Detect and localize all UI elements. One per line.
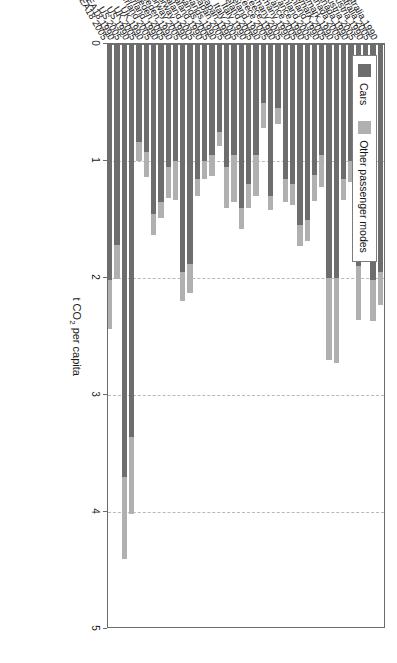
bar-segment-cars — [297, 44, 302, 225]
bar-segment-other-passenger-modes — [224, 167, 229, 208]
bar-segment-cars — [275, 44, 280, 108]
bar-row — [305, 44, 310, 628]
tick-mark — [103, 511, 107, 512]
tick-label: 4 — [90, 499, 101, 523]
bar-segment-cars — [341, 44, 346, 179]
bar-row — [136, 44, 141, 628]
bar-segment-cars — [195, 44, 200, 179]
tick-label: 3 — [90, 382, 101, 406]
bar-segment-other-passenger-modes — [327, 278, 332, 360]
bar-segment-other-passenger-modes — [312, 175, 317, 201]
bar-segment-other-passenger-modes — [378, 272, 383, 305]
bar-row — [209, 44, 214, 628]
bar-row — [151, 44, 156, 628]
bar-row — [217, 44, 222, 628]
tick-label: 2 — [90, 265, 101, 289]
legend-label: Other passenger modes — [359, 140, 371, 253]
legend-swatch — [358, 121, 371, 134]
chart-figure-rotated: 012345 t CO2 per capita Australia 1990Au… — [0, 0, 397, 663]
legend-item[interactable]: Cars — [358, 64, 371, 105]
bar-segment-cars — [290, 44, 295, 184]
bar-segment-cars — [253, 44, 258, 155]
bar-segment-cars — [122, 44, 127, 477]
legend-item[interactable]: Other passenger modes — [358, 121, 371, 253]
bar-segment-cars — [224, 44, 229, 167]
tick-label: 1 — [90, 148, 101, 172]
bar-row — [202, 44, 207, 628]
bar-row — [188, 44, 193, 628]
bar-segment-other-passenger-modes — [107, 280, 112, 329]
bar-row — [144, 44, 149, 628]
axis-title-pre: t CO — [71, 298, 83, 321]
bar-segment-other-passenger-modes — [158, 202, 163, 218]
plot-area — [107, 43, 385, 628]
bar-segment-other-passenger-modes — [217, 132, 222, 146]
bar-row — [319, 44, 324, 628]
bar-segment-cars — [173, 44, 178, 161]
bar-segment-cars — [231, 44, 236, 155]
bar-segment-other-passenger-modes — [253, 155, 258, 196]
bar-segment-other-passenger-modes — [122, 477, 127, 559]
bar-segment-other-passenger-modes — [202, 161, 207, 179]
bar-row — [107, 44, 112, 628]
bar-segment-other-passenger-modes — [283, 179, 288, 202]
bar-row — [275, 44, 280, 628]
bar-segment-cars — [209, 44, 214, 155]
bar-segment-cars — [283, 44, 288, 179]
bar-segment-cars — [378, 44, 383, 272]
chart-legend: CarsOther passenger modes — [352, 55, 377, 262]
chart-figure: 012345 t CO2 per capita Australia 1990Au… — [0, 0, 397, 663]
bar-row — [312, 44, 317, 628]
bar-segment-other-passenger-modes — [261, 103, 266, 129]
bar-segment-cars — [239, 44, 244, 208]
bar-segment-other-passenger-modes — [144, 152, 149, 178]
bar-row — [341, 44, 346, 628]
bar-segment-cars — [158, 44, 163, 202]
bar-segment-other-passenger-modes — [334, 278, 339, 363]
bar-row — [231, 44, 236, 628]
bar-segment-other-passenger-modes — [268, 196, 273, 210]
bar-row — [268, 44, 273, 628]
bar-segment-cars — [202, 44, 207, 161]
tick-label: 5 — [90, 616, 101, 640]
bar-segment-cars — [114, 44, 119, 245]
bar-row — [261, 44, 266, 628]
bar-segment-cars — [327, 44, 332, 278]
bar-segment-other-passenger-modes — [180, 272, 185, 301]
axis-title-post: per capita — [71, 325, 83, 376]
legend-swatch — [358, 64, 371, 77]
bar-segment-other-passenger-modes — [319, 155, 324, 187]
bar-row — [195, 44, 200, 628]
tick-mark — [103, 160, 107, 161]
bar-row — [180, 44, 185, 628]
bar-segment-other-passenger-modes — [166, 167, 171, 199]
bar-segment-cars — [319, 44, 324, 155]
bar-segment-other-passenger-modes — [129, 437, 134, 514]
bar-segment-cars — [136, 44, 141, 142]
bar-segment-cars — [305, 44, 310, 220]
bar-segment-other-passenger-modes — [195, 179, 200, 197]
bar-segment-other-passenger-modes — [188, 264, 193, 293]
bar-segment-other-passenger-modes — [209, 155, 214, 176]
bar-segment-cars — [246, 44, 251, 184]
bar-segment-other-passenger-modes — [173, 161, 178, 200]
legend-label: Cars — [359, 83, 371, 105]
tick-mark — [103, 43, 107, 44]
bar-segment-cars — [107, 44, 112, 280]
bar-segment-other-passenger-modes — [356, 266, 361, 320]
bar-segment-cars — [180, 44, 185, 272]
bar-row — [173, 44, 178, 628]
bar-segment-other-passenger-modes — [370, 280, 375, 321]
bar-segment-cars — [166, 44, 171, 167]
bar-row — [297, 44, 302, 628]
bar-segment-other-passenger-modes — [305, 220, 310, 241]
tick-mark — [103, 394, 107, 395]
bar-segment-cars — [261, 44, 266, 103]
bar-segment-other-passenger-modes — [136, 142, 141, 161]
bar-row — [253, 44, 258, 628]
bar-segment-cars — [268, 44, 273, 196]
bar-segment-other-passenger-modes — [151, 214, 156, 235]
bar-segment-cars — [334, 44, 339, 278]
bar-row — [224, 44, 229, 628]
bar-row — [114, 44, 119, 628]
